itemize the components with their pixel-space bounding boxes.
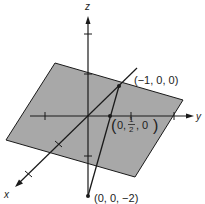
z-axis-arrow-icon — [86, 16, 91, 24]
coord-suffix: , 0 — [136, 119, 148, 131]
x-axis-label: x — [3, 189, 10, 200]
paren-right: ) — [153, 117, 158, 134]
frac-den: 2 — [129, 125, 134, 134]
point-z-intercept-label: (0, 0, −2) — [94, 192, 138, 204]
point-x-intercept-label: (−1, 0, 0) — [134, 74, 178, 86]
coord-prefix: 0, — [117, 119, 126, 131]
z-axis-label: z — [84, 1, 90, 12]
point-z-intercept-dot — [86, 194, 90, 198]
diagram-canvas: z y x (−1, 0, 0) ( 0, 1 2 , 0 ) (0, 0, −… — [0, 0, 205, 204]
y-axis-label: y — [195, 111, 202, 122]
y-axis-arrow-icon — [186, 114, 194, 119]
point-x-intercept-dot — [117, 84, 121, 88]
frac-num: 1 — [129, 115, 134, 124]
